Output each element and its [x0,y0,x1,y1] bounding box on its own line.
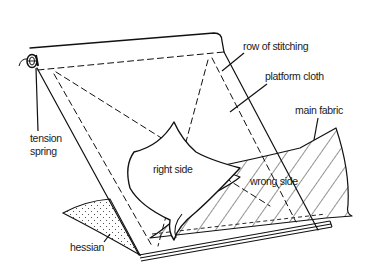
label-spring: spring [30,145,57,157]
leader-main-fabric [314,118,318,140]
leader-platform-cloth [230,84,267,112]
label-row-of-stitching: row of stitching [243,40,308,52]
label-main-fabric: main fabric [295,104,343,116]
diagram-canvas: row of stitching platform cloth main fab… [0,0,368,272]
label-right-side: right side [153,163,193,175]
label-wrong-side: wrong side [250,175,298,187]
label-hessian: hessian [70,241,104,253]
label-platform-cloth: platform cloth [265,70,324,82]
leader-tension-spring [36,68,38,131]
tension-spring-icon [19,55,38,68]
label-tension: tension [30,132,62,144]
